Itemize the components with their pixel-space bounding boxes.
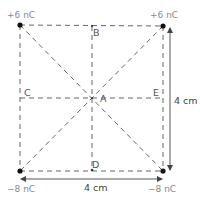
charge-dot-top-right (160, 23, 165, 28)
charge-label-bottom-left: −8 nC (7, 184, 35, 194)
charge-dot-bottom-right (160, 168, 165, 173)
charge-label-top-left: +6 nC (7, 10, 35, 20)
dimension-label-horizontal: 4 cm (84, 182, 108, 193)
point-marker-A (91, 97, 93, 99)
charge-square-diagram: +6 nC +6 nC −8 nC −8 nC A B C D E 4 cm 4… (0, 0, 200, 207)
point-label-A: A (100, 93, 107, 104)
point-label-B: B (93, 27, 100, 38)
dimension-label-vertical: 4 cm (174, 95, 198, 106)
point-label-C: C (24, 87, 31, 98)
point-label-E: E (153, 87, 159, 98)
point-label-D: D (92, 159, 99, 170)
charge-label-top-right: +6 nC (150, 10, 178, 20)
charge-dot-bottom-left (17, 168, 22, 173)
charge-dot-top-left (17, 22, 22, 27)
charge-label-bottom-right: −8 nC (148, 184, 176, 194)
